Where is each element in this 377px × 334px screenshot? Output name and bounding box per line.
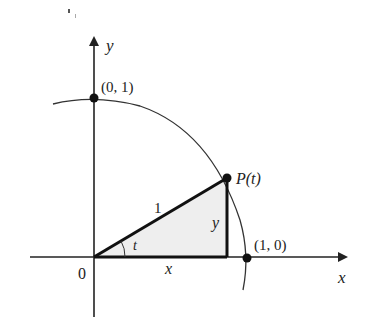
- hypotenuse-label: 1: [154, 200, 162, 216]
- opposite-label: y: [210, 214, 220, 232]
- adjacent-label: x: [164, 260, 172, 277]
- origin-label: 0: [78, 265, 86, 282]
- point-right-label: (1, 0): [254, 237, 287, 254]
- point-right: [243, 254, 252, 263]
- point-top: [90, 94, 99, 103]
- point-top-label: (0, 1): [101, 79, 134, 96]
- unit-circle-diagram: y x 0 (0, 1) (1, 0) P(t) 1 x y t: [0, 0, 377, 334]
- point-p: [223, 174, 232, 183]
- scan-artifact: [68, 9, 76, 18]
- y-axis-label: y: [104, 36, 114, 55]
- x-axis-label: x: [337, 268, 346, 287]
- point-p-label: P(t): [235, 170, 261, 188]
